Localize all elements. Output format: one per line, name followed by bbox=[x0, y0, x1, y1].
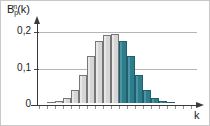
y-tick-label-0-2: 0,2 bbox=[17, 26, 31, 36]
x-tick-mark bbox=[63, 106, 64, 109]
y-tick-label-0-1: 0,1 bbox=[17, 63, 31, 73]
binomial-distribution-chart: Bnp(k) 0,2 0,1 0 k bbox=[0, 0, 210, 126]
x-tick-mark bbox=[71, 106, 72, 109]
bar-16 bbox=[167, 102, 175, 103]
bar-10 bbox=[119, 41, 127, 103]
bar-13 bbox=[143, 90, 151, 103]
bar-series bbox=[39, 21, 191, 103]
bar-11 bbox=[127, 56, 135, 103]
bar-14 bbox=[151, 98, 159, 103]
x-tick-mark bbox=[95, 106, 96, 109]
bar-12 bbox=[135, 75, 143, 103]
bar-9 bbox=[111, 34, 119, 103]
x-tick-mark bbox=[79, 106, 80, 109]
x-axis-arrow-icon bbox=[196, 102, 204, 108]
bar-5 bbox=[79, 75, 87, 103]
x-tick-mark bbox=[39, 106, 40, 109]
x-tick-mark bbox=[183, 106, 184, 109]
x-tick-mark bbox=[47, 106, 48, 109]
x-tick-mark bbox=[55, 106, 56, 109]
x-tick-mark bbox=[167, 106, 168, 109]
x-tick-mark bbox=[87, 106, 88, 109]
x-tick-mark bbox=[103, 106, 104, 109]
y-tick-label-0: 0 bbox=[25, 99, 31, 109]
x-tick-mark bbox=[191, 106, 192, 109]
x-tick-mark bbox=[111, 106, 112, 109]
bar-8 bbox=[103, 35, 111, 103]
x-tick-mark bbox=[151, 106, 152, 109]
x-tick-mark bbox=[159, 106, 160, 109]
bar-4 bbox=[71, 90, 79, 103]
x-tick-mark bbox=[175, 106, 176, 109]
bar-6 bbox=[87, 56, 95, 103]
x-tick-mark bbox=[135, 106, 136, 109]
bar-2 bbox=[55, 101, 63, 103]
x-tick-mark bbox=[119, 106, 120, 109]
x-tick-mark bbox=[127, 106, 128, 109]
x-axis-label: k bbox=[194, 110, 200, 121]
y-axis-line bbox=[37, 23, 38, 106]
bar-3 bbox=[63, 98, 71, 103]
bar-1 bbox=[47, 102, 55, 103]
x-tick-mark bbox=[143, 106, 144, 109]
bar-7 bbox=[95, 41, 103, 103]
bar-15 bbox=[159, 101, 167, 103]
